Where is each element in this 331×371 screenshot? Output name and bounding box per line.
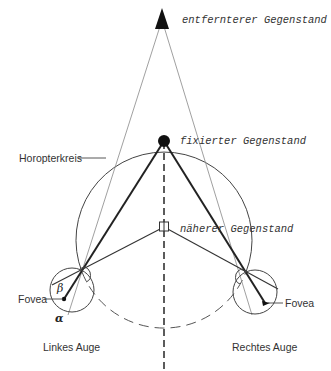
right-fovea-marker <box>262 301 270 306</box>
horopter-diagram: entfernterer Gegenstand fixierter Gegens… <box>0 0 331 371</box>
alpha-angle-label: α <box>55 312 64 325</box>
left-fovea-label: Fovea <box>18 293 47 305</box>
nearer-object-label: näherer Gegenstand <box>180 223 294 235</box>
right-fovea-label: Fovea <box>285 297 314 309</box>
distant-object-label: entfernterer Gegenstand <box>182 14 328 26</box>
line-right-eye-to-nearer <box>164 227 278 289</box>
right-eye-label: Rechtes Auge <box>232 341 298 353</box>
line-left-eye-to-nearer <box>52 227 164 285</box>
fixated-object-dot-icon <box>158 135 170 147</box>
horopter-label: Horopterkreis <box>19 152 82 164</box>
line-left-fovea-to-fixated <box>64 141 164 299</box>
distant-object-triangle-icon <box>155 8 169 29</box>
beta-angle-label: β <box>56 282 63 295</box>
fixated-object-label: fixierter Gegenstand <box>180 135 307 147</box>
left-eye-label: Linkes Auge <box>43 341 100 353</box>
